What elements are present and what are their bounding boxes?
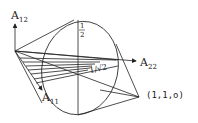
a11-axis [15, 51, 42, 90]
label-half-den: 2 [80, 31, 84, 39]
label-half-num: 1 [80, 22, 84, 30]
label-a11: A11 [41, 91, 59, 106]
cone-ellipse-diagram: A12 A22 A11 1 2 1/√2 (1,1,o) [0, 0, 198, 123]
label-a12: A12 [10, 9, 28, 24]
label-a22: A22 [139, 56, 157, 71]
label-point-110: (1,1,o) [146, 90, 184, 100]
